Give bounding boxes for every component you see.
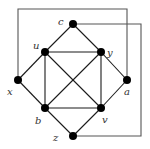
label-b: b bbox=[35, 115, 41, 126]
node-c bbox=[69, 20, 77, 28]
node-labels: cuyxabvz bbox=[7, 16, 130, 143]
label-z: z bbox=[52, 132, 59, 143]
label-a: a bbox=[124, 86, 130, 97]
node-u bbox=[41, 48, 49, 56]
graph-diagram: cuyxabvz bbox=[0, 0, 150, 149]
label-x: x bbox=[7, 86, 13, 97]
edge-b-z bbox=[45, 108, 73, 136]
label-v: v bbox=[102, 114, 108, 125]
label-c: c bbox=[58, 16, 64, 27]
label-y: y bbox=[106, 47, 113, 58]
edge-v-z bbox=[73, 108, 101, 136]
node-y bbox=[97, 48, 105, 56]
edge-u-x bbox=[18, 52, 45, 80]
node-a bbox=[123, 76, 131, 84]
node-x bbox=[14, 76, 22, 84]
node-z bbox=[69, 132, 77, 140]
label-u: u bbox=[33, 40, 39, 51]
node-v bbox=[97, 104, 105, 112]
edge-x-b bbox=[18, 80, 45, 108]
edge-c-u bbox=[45, 24, 73, 52]
edge-c-y bbox=[73, 24, 101, 52]
edge-y-a bbox=[101, 52, 127, 80]
node-b bbox=[41, 104, 49, 112]
